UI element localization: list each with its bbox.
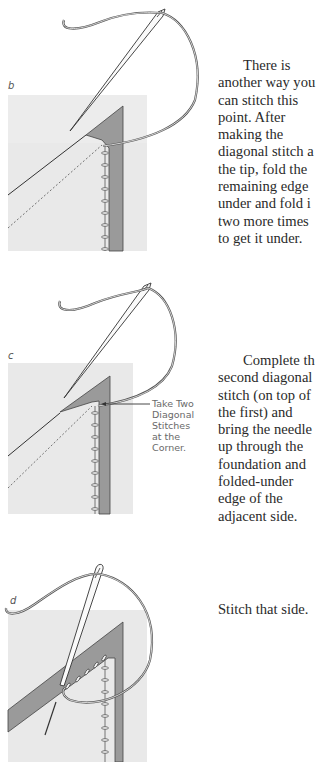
illustration-c: c Take Two Diagonal Stitches at the Corn…	[0, 256, 215, 516]
text-line: second diagonal	[218, 369, 327, 386]
text-line: diagonal stitch a	[218, 143, 327, 160]
text-line: foundation and	[218, 456, 327, 473]
illustration-b: b	[0, 0, 215, 256]
text-line: to get it under.	[218, 230, 327, 247]
text-line: folded-under	[218, 473, 327, 490]
step-letter-c: c	[8, 350, 14, 361]
text-line: stitch (on top of	[218, 387, 327, 404]
text-line: bring the needle	[218, 421, 327, 438]
diagram-d-svg	[0, 560, 215, 762]
text-line: edge of the	[218, 490, 327, 507]
text-line: adjacent side.	[218, 508, 327, 525]
diagram-b-svg	[0, 0, 215, 256]
text-line: Complete th	[218, 352, 327, 369]
text-line: under and fold i	[218, 195, 327, 212]
text-line: There is	[218, 57, 327, 74]
text-line: remaining edge	[218, 178, 327, 195]
diagram-c-svg	[0, 256, 215, 516]
text-line: the tip, fold the	[218, 161, 327, 178]
text-line: the first) and	[218, 404, 327, 421]
illustration-d: d	[0, 560, 215, 762]
text-line: making the	[218, 126, 327, 143]
callout-label: Take Two Diagonal Stitches at the Corner…	[152, 398, 194, 453]
text-line: Stitch that side.	[218, 601, 327, 618]
step-c-text: Complete th second diagonal stitch (on t…	[218, 352, 327, 525]
foundation-fabric	[8, 363, 133, 514]
step-d-text: Stitch that side.	[218, 601, 327, 618]
step-letter-d: d	[10, 595, 16, 606]
text-line: up through the	[218, 438, 327, 455]
step-letter-b: b	[8, 80, 14, 91]
text-line: another way you	[218, 74, 327, 91]
text-line: two more times	[218, 213, 327, 230]
text-line: can stitch this	[218, 92, 327, 109]
step-b-text: There is another way you can stitch this…	[218, 57, 327, 247]
text-line: point. After	[218, 109, 327, 126]
